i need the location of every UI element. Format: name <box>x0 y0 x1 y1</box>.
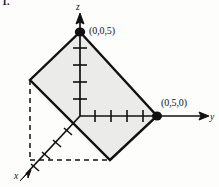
x-axis-arrowhead <box>20 170 31 181</box>
point-dot-y-intercept <box>152 111 162 120</box>
problem-number-label: 1. <box>2 0 10 7</box>
y-axis-label: y <box>210 113 214 123</box>
point-coordinate-label-z: (0,0,5) <box>89 26 115 36</box>
figure-container: 1. z y x (0,0,5) (0,5,0) <box>0 0 219 187</box>
x-axis-label: x <box>14 172 18 182</box>
y-axis-arrowhead <box>199 112 209 120</box>
point-dot-z-intercept <box>75 27 85 36</box>
z-axis-arrowhead <box>76 13 84 24</box>
point-coordinate-label-y: (0,5,0) <box>161 98 187 108</box>
z-axis-label: z <box>76 3 80 13</box>
x-axis <box>20 116 80 181</box>
x-axis-line <box>26 116 80 174</box>
x-axis-ticks <box>31 128 72 171</box>
